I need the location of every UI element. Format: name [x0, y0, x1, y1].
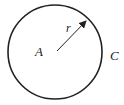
radius-arrow: [57, 21, 86, 51]
circle-diagram: A r C: [0, 0, 124, 105]
label-center-a: A: [34, 44, 43, 59]
label-radius-r: r: [66, 21, 71, 35]
label-circle-c: C: [110, 48, 119, 63]
circle-c: [8, 5, 102, 99]
